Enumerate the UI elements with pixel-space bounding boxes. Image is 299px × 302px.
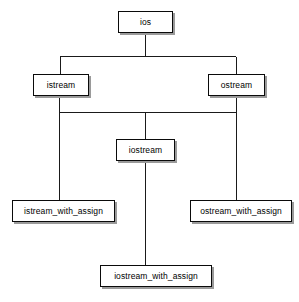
- node-iostream-label: iostream: [129, 146, 162, 155]
- node-istream-label: istream: [47, 81, 76, 90]
- node-istream[interactable]: istream: [33, 74, 89, 96]
- class-hierarchy-diagram: ios istream ostream iostream istream_wit…: [0, 0, 299, 302]
- node-iostream[interactable]: iostream: [116, 139, 175, 161]
- node-ostream[interactable]: ostream: [208, 74, 265, 96]
- node-ios[interactable]: ios: [118, 11, 173, 33]
- node-iostream-with-assign-label: iostream_with_assign: [114, 272, 198, 281]
- node-ostream-with-assign-label: ostream_with_assign: [200, 207, 282, 216]
- node-ios-label: ios: [140, 18, 151, 27]
- node-ostream-with-assign[interactable]: ostream_with_assign: [190, 200, 292, 222]
- node-ostream-label: ostream: [221, 81, 252, 90]
- node-iostream-with-assign[interactable]: iostream_with_assign: [100, 265, 212, 287]
- node-istream-with-assign-label: istream_with_assign: [24, 207, 103, 216]
- node-istream-with-assign[interactable]: istream_with_assign: [12, 200, 115, 222]
